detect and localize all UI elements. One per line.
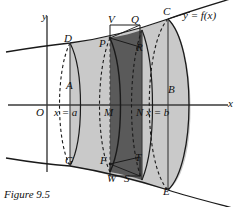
label-point-Q: Q	[131, 14, 139, 25]
point-dot-F	[109, 163, 112, 166]
label-x-equals-a: x = a	[54, 107, 77, 118]
label-y-axis: y	[42, 11, 47, 22]
label-point-F: F	[100, 155, 107, 166]
label-point-C: C	[163, 6, 170, 17]
label-point-A: A	[66, 80, 73, 91]
point-dot-P	[109, 37, 112, 40]
label-point-G: G	[65, 155, 73, 166]
label-function: y = f(x)	[183, 10, 216, 21]
label-point-B: B	[168, 84, 175, 95]
label-point-T: T	[135, 152, 141, 163]
label-x-equals-b: x = b	[146, 107, 169, 118]
label-point-S: S	[124, 173, 130, 184]
label-point-R: R	[136, 42, 143, 53]
label-point-M: M	[104, 107, 113, 118]
label-point-D: D	[64, 33, 72, 44]
label-point-P: P	[99, 38, 106, 49]
solid-of-revolution-diagram	[0, 0, 244, 207]
figure-caption: Figure 9.5	[4, 188, 50, 200]
label-origin: O	[36, 107, 44, 118]
label-point-V: V	[108, 14, 115, 25]
label-point-W: W	[107, 173, 116, 184]
figure-container: y x O x = a x = b y = f(x) D A G P M F V…	[0, 0, 244, 207]
label-point-N: N	[136, 107, 143, 118]
label-x-axis: x	[228, 98, 233, 109]
label-point-E: E	[163, 186, 170, 197]
